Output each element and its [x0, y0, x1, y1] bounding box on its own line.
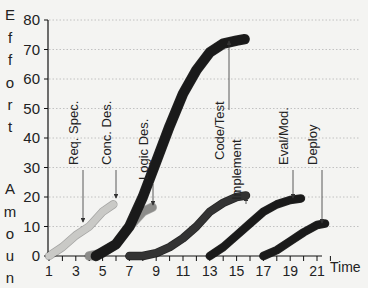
y-axis-label-letter: o	[6, 225, 14, 242]
annotation-label: Deploy	[305, 124, 320, 165]
y-axis-label-letter: f	[8, 51, 13, 68]
y-axis-label-letter: E	[5, 6, 15, 23]
y-tick-label: 20	[23, 188, 40, 205]
y-tick-label: 30	[23, 159, 40, 176]
x-tick-label: 21	[309, 263, 325, 279]
y-axis-label-letter: m	[4, 203, 17, 220]
y-tick-label: 60	[23, 70, 40, 87]
annotation-label: Req. Spec.	[66, 101, 81, 165]
x-tick-label: 7	[126, 263, 134, 279]
y-tick-label: 80	[23, 11, 40, 28]
x-tick-label: 3	[72, 263, 80, 279]
y-axis-label-letter: o	[6, 74, 14, 91]
y-axis-label-letter: u	[6, 247, 14, 264]
y-tick-label: 40	[23, 129, 40, 146]
effort-time-chart: 0102030405060708013579111315171921TimeEf…	[0, 0, 368, 288]
y-tick-label: 0	[32, 247, 40, 264]
y-axis-label-letter: A	[5, 180, 15, 197]
y-axis-label-letter: t	[8, 0, 13, 3]
x-tick-label: 5	[99, 263, 107, 279]
series-line	[263, 224, 325, 256]
y-axis-label-letter: t	[8, 118, 13, 135]
annotation-label: Eval/Mod.	[276, 107, 291, 165]
x-tick-label: 13	[202, 263, 218, 279]
y-tick-label: 70	[23, 41, 40, 58]
y-tick-label: 10	[23, 218, 40, 235]
annotation-label: Code/Test	[212, 101, 227, 160]
y-axis-label-letter: r	[8, 96, 13, 113]
x-tick-label: 19	[282, 263, 298, 279]
annotation-label: Logic Des.	[136, 119, 151, 180]
x-tick-label: 17	[256, 263, 272, 279]
x-axis-label: Time	[330, 259, 361, 275]
annotation-label: Implement	[229, 139, 244, 200]
y-axis-label-letter: n	[6, 269, 14, 286]
y-tick-label: 50	[23, 100, 40, 117]
annotation-label: Conc. Des.	[99, 101, 114, 165]
y-axis-label-letter: f	[8, 29, 13, 46]
x-tick-label: 11	[176, 263, 191, 279]
x-tick-label: 9	[152, 263, 160, 279]
x-tick-label: 1	[45, 263, 53, 279]
x-tick-label: 15	[229, 263, 245, 279]
chart-canvas: 0102030405060708013579111315171921TimeEf…	[0, 0, 368, 288]
